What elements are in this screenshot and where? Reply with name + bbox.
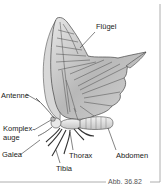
- label-abdomen: Abdomen: [116, 152, 148, 160]
- label-tibia: Tibia: [56, 165, 72, 173]
- label-compound-eye-line2: auge: [3, 134, 20, 142]
- figure-caption: Abb. 36.82: [106, 178, 144, 186]
- label-wing: Flügel: [96, 23, 116, 31]
- label-galea: Galea: [2, 151, 22, 159]
- label-thorax: Thorax: [69, 152, 92, 160]
- galea: [38, 127, 52, 136]
- label-compound-eye-line1: Komplex-: [3, 125, 35, 133]
- abdomen: [80, 117, 113, 130]
- compound-eye: [51, 117, 56, 122]
- label-antenna: Antenne: [1, 92, 29, 100]
